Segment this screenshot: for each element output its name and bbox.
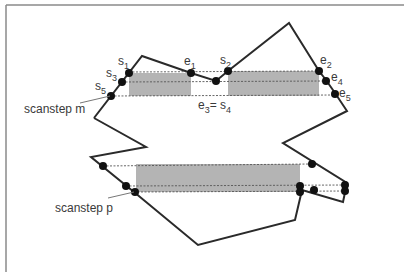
point-e3-s4 (212, 77, 220, 85)
point-lower-6 (296, 188, 304, 196)
point-e5 (331, 90, 339, 98)
point-lower-9 (341, 187, 349, 195)
scanline-diagram: s1 s3 s5 e1 s2 e2 e4 e5 e3= s4 scanstep … (0, 0, 406, 272)
point-e2 (315, 67, 323, 75)
label-e1: e1 (184, 54, 196, 71)
label-s2: s2 (220, 53, 231, 70)
point-e4 (322, 77, 330, 85)
polygon-outline (91, 23, 347, 245)
label-s3: s3 (106, 66, 117, 83)
label-scanstep-p: scanstep p (55, 201, 113, 215)
label-e4: e4 (331, 70, 343, 87)
label-s1: s1 (118, 54, 129, 71)
label-e2: e2 (320, 53, 332, 70)
span-lower (136, 164, 300, 192)
label-s5: s5 (95, 79, 106, 96)
lower-spans (136, 164, 300, 192)
point-lower-2 (122, 182, 130, 190)
label-e3-eq-s4: e3= s4 (198, 98, 231, 115)
point-s3 (118, 78, 126, 86)
point-lower-7 (310, 186, 318, 194)
point-lower-1 (99, 162, 107, 170)
figure-frame (6, 5, 404, 272)
label-scanstep-m: scanstep m (24, 102, 85, 116)
point-lower-4 (308, 160, 316, 168)
span-s1-e1 (129, 73, 191, 96)
span-s2-e2 (228, 71, 319, 96)
